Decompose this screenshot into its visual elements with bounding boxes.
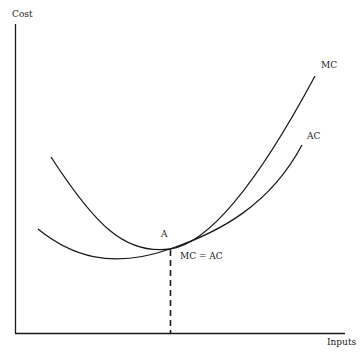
ac-curve-label: AC [307, 131, 320, 141]
point-a-label: A [161, 229, 168, 239]
mc-curve-label: MC [321, 60, 337, 70]
cost-curves-chart: Cost Inputs MC AC A MC = AC [0, 0, 362, 355]
ac-curve [38, 145, 302, 259]
y-axis-label: Cost [12, 9, 33, 19]
chart-plot-area [0, 0, 362, 355]
x-axis-label: Inputs [327, 337, 356, 347]
mc-equals-ac-label: MC = AC [180, 251, 223, 261]
mc-curve [51, 76, 315, 250]
